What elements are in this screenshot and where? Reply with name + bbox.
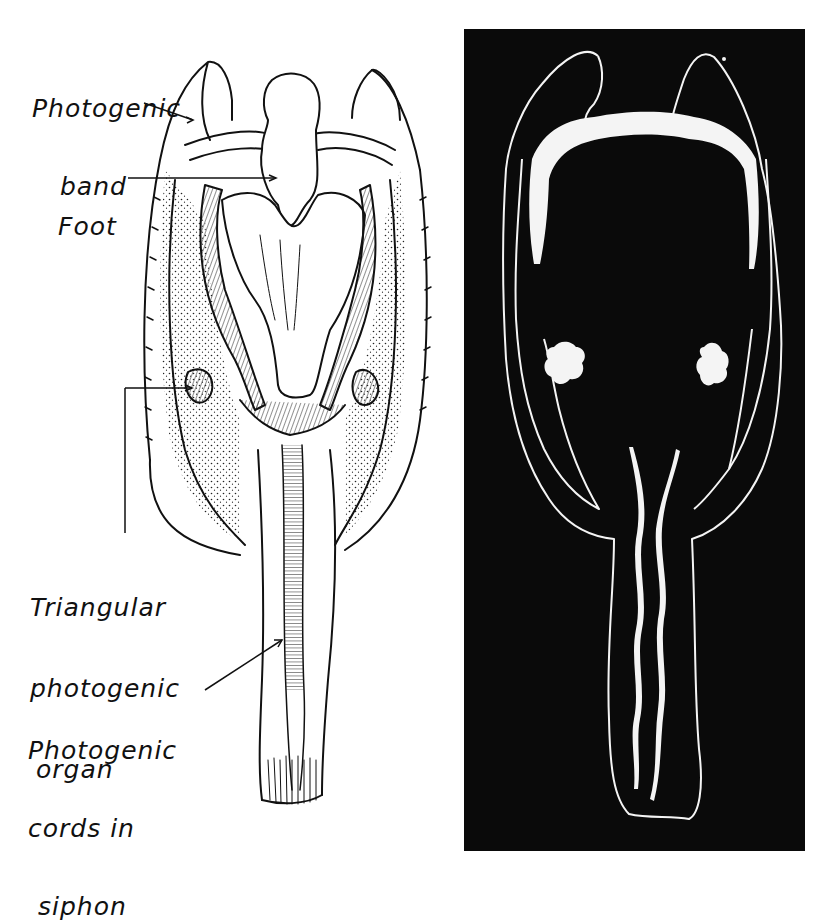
arrow-photogenic-cords [205,640,282,690]
anatomical-drawing [0,0,460,868]
arrow-photogenic-band [144,103,193,120]
label-line: siphon [28,894,177,920]
luminescence-photo [464,29,805,851]
bivalve-line-drawing [0,0,460,868]
glowing-animal-photo [464,29,805,851]
triangular-organ-right [353,370,379,405]
triangular-organ-left [186,369,213,402]
